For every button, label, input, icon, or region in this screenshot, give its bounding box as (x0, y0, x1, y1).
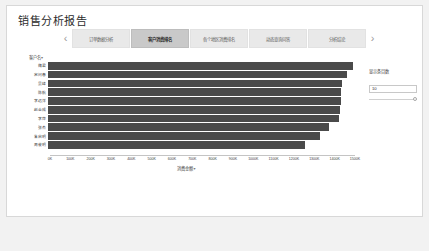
chevron-right-icon[interactable]: › (366, 29, 379, 48)
chart-row: 李远洋 (18, 97, 355, 105)
customer-spend-bar-chart: 客户名▾ 魏君宋问春吴峰陈航李远洋赵金成李萍张杰朱启明周俊明 0K100K200… (18, 54, 355, 179)
x-tick-label: 700K (188, 157, 196, 161)
bar-track (48, 97, 355, 105)
tab-order-analysis[interactable]: 订单数据分析 (72, 29, 130, 48)
category-label: 赵金成 (18, 107, 48, 112)
category-label: 张杰 (18, 125, 48, 130)
bar[interactable] (48, 123, 329, 131)
page-title: 销售分析报告 (18, 12, 87, 28)
report-window: 销售分析报告 ‹ 订单数据分析 客户消费排名 各个地区消费排名 动态查询问答 分… (6, 5, 423, 217)
chart-row: 周俊明 (18, 141, 355, 149)
bar-track (48, 115, 355, 123)
chart-row: 朱启明 (18, 132, 355, 140)
bar-track (48, 123, 355, 131)
chevron-left-icon[interactable]: ‹ (59, 29, 72, 48)
x-tick-label: 900K (229, 157, 237, 161)
x-tick-label: 300K (107, 157, 115, 161)
category-label: 陈航 (18, 90, 48, 95)
category-label: 周俊明 (18, 142, 48, 147)
chart-row: 吴峰 (18, 80, 355, 88)
category-label: 宋问春 (18, 72, 48, 77)
bar[interactable] (48, 106, 340, 114)
item-count-label: 显示条目数 (369, 68, 417, 74)
tab-customer-ranking[interactable]: 客户消费排名 (131, 29, 189, 48)
tab-carousel: ‹ 订单数据分析 客户消费排名 各个地区消费排名 动态查询问答 分析结论 › (59, 29, 379, 48)
bar-track (48, 80, 355, 88)
category-label: 朱启明 (18, 134, 48, 139)
x-axis-title-text: 消费金额 (177, 166, 193, 171)
chart-row: 李萍 (18, 115, 355, 123)
category-label: 李远洋 (18, 98, 48, 103)
y-axis-title-text: 客户名 (29, 55, 41, 60)
item-count-input[interactable] (369, 85, 417, 93)
x-tick-label: 1000K (248, 157, 258, 161)
bar-track (48, 106, 355, 114)
y-axis-sort-icon[interactable]: ▾ (41, 55, 43, 60)
x-axis-title: 消费金额▾ (18, 165, 355, 171)
x-tick-label: 600K (168, 157, 176, 161)
x-tick-label: 0K (48, 157, 52, 161)
bar[interactable] (48, 88, 341, 96)
tab-conclusion[interactable]: 分析结论 (308, 29, 366, 48)
bar-track (48, 71, 355, 79)
x-tick-label: 800K (208, 157, 216, 161)
x-tick-label: 1500K (350, 157, 360, 161)
x-axis-line (50, 155, 355, 156)
x-tick-label: 1300K (309, 157, 319, 161)
tab-region-ranking[interactable]: 各个地区消费排名 (190, 29, 248, 48)
chart-row: 陈航 (18, 88, 355, 96)
bar[interactable] (48, 62, 353, 70)
chart-row: 赵金成 (18, 106, 355, 114)
category-label: 吴峰 (18, 81, 48, 86)
x-tick-label: 200K (86, 157, 94, 161)
bar[interactable] (48, 80, 342, 88)
category-label: 魏君 (18, 63, 48, 68)
slider-track (369, 99, 417, 100)
bar[interactable] (48, 115, 339, 123)
y-axis-title: 客户名▾ (29, 54, 43, 60)
bar-track (48, 132, 355, 140)
bar[interactable] (48, 141, 305, 149)
x-tick-label: 1100K (269, 157, 279, 161)
x-axis: 0K100K200K300K400K500K600K700K800K900K10… (50, 155, 355, 165)
plot-area: 魏君宋问春吴峰陈航李远洋赵金成李萍张杰朱启明周俊明 (18, 62, 355, 154)
x-tick-label: 100K (66, 157, 74, 161)
x-axis-sort-icon[interactable]: ▾ (193, 166, 195, 171)
x-tick-label: 1200K (289, 157, 299, 161)
bar-track (48, 62, 355, 70)
bar-track (48, 88, 355, 96)
x-tick-label: 400K (127, 157, 135, 161)
chart-row: 魏君 (18, 62, 355, 70)
tab-dynamic-query[interactable]: 动态查询问答 (249, 29, 307, 48)
bar-track (48, 141, 355, 149)
chart-row: 宋问春 (18, 71, 355, 79)
x-tick-label: 500K (147, 157, 155, 161)
bar[interactable] (48, 71, 347, 79)
tab-list: 订单数据分析 客户消费排名 各个地区消费排名 动态查询问答 分析结论 (72, 29, 366, 48)
chart-row: 张杰 (18, 123, 355, 131)
slider-thumb[interactable] (413, 97, 417, 101)
x-tick-label: 1400K (329, 157, 339, 161)
bar[interactable] (48, 132, 320, 140)
item-count-slider[interactable] (369, 96, 417, 104)
category-label: 李萍 (18, 116, 48, 121)
item-count-control: 显示条目数 (369, 68, 417, 104)
bar[interactable] (48, 97, 341, 105)
